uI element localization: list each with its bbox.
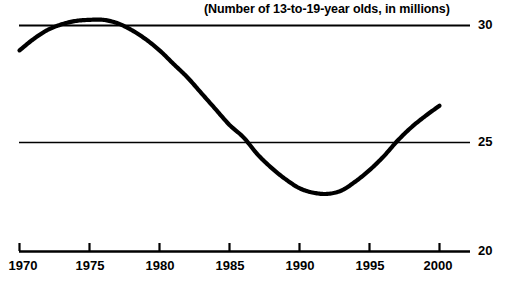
x-axis-label-1995: 1995 <box>356 258 385 273</box>
x-axis-ticks <box>20 243 440 251</box>
chart-plot-area <box>0 0 507 287</box>
x-axis-label-1985: 1985 <box>216 258 245 273</box>
y-axis-label-25: 25 <box>478 134 492 149</box>
x-axis-label-1980: 1980 <box>146 258 175 273</box>
x-axis-label-1990: 1990 <box>286 258 315 273</box>
x-axis-label-1970: 1970 <box>9 258 38 273</box>
x-axis-label-2000: 2000 <box>424 258 453 273</box>
data-series-line <box>20 20 440 194</box>
y-axis-label-20: 20 <box>478 243 492 258</box>
y-axis-label-30: 30 <box>478 17 492 32</box>
x-axis-label-1975: 1975 <box>76 258 105 273</box>
chart-container: (Number of 13-to-19-year olds, in millio… <box>0 0 507 287</box>
cut-off-caption <box>18 279 318 285</box>
